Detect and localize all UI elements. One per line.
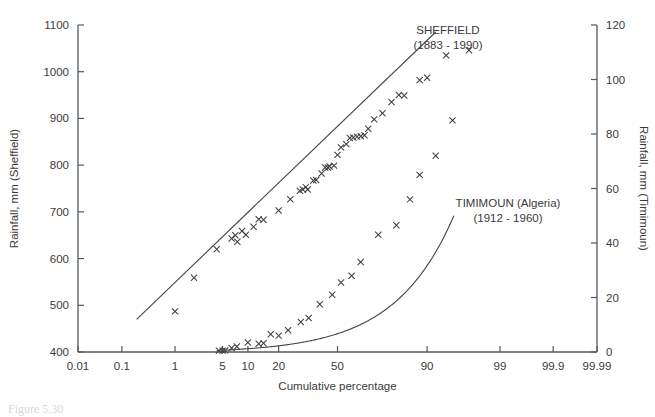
x-tick-label: 50	[331, 360, 344, 372]
x-tick-label: 0.1	[114, 360, 130, 372]
x-axis-title: Cumulative percentage	[278, 380, 396, 392]
x-tick-label: 0.01	[67, 360, 89, 372]
y-axis-title: Rainfall, mm (Sheffield)	[8, 129, 20, 248]
x-tick-label: 99	[494, 360, 507, 372]
y-tick-label: 400	[50, 346, 69, 358]
y2-tick-label: 0	[606, 346, 612, 358]
y-tick-label: 700	[50, 206, 69, 218]
x-tick-label: 1	[172, 360, 178, 372]
y-tick-label: 1000	[43, 66, 69, 78]
y2-tick-label: 20	[606, 292, 619, 304]
y-tick-label: 500	[50, 299, 69, 311]
y2-tick-label: 120	[606, 19, 625, 31]
sheffield-fit-line	[137, 32, 436, 319]
x-tick-label: 99.9	[542, 360, 564, 372]
y2-tick-label: 100	[606, 74, 625, 86]
y-tick-label: 1100	[44, 19, 69, 31]
y-tick-label: 800	[50, 159, 69, 171]
y2-axis-title: Rainfall, mm (Timimoun)	[638, 126, 650, 251]
y-tick-label: 900	[50, 112, 69, 124]
x-tick-label: 5	[219, 360, 225, 372]
x-tick-label: 10	[241, 360, 254, 372]
x-tick-label: 90	[421, 360, 434, 372]
y-tick-label: 600	[50, 253, 69, 265]
sheffield-label-line1: SHEFFIELD	[416, 24, 479, 36]
timimoun-label-line1: TIMIMOUN (Algeria)	[456, 197, 561, 209]
y2-tick-label: 40	[606, 237, 619, 249]
timimoun-label-line2: (1912 - 1960)	[473, 212, 542, 224]
figure-caption: Figure 5.30	[8, 402, 63, 417]
sheffield-label-line2: (1883 - 1990)	[413, 39, 482, 51]
y2-tick-label: 80	[606, 128, 619, 140]
x-tick-label: 99.99	[583, 360, 612, 372]
x-tick-label: 20	[272, 360, 285, 372]
timimoun-fit-curve	[217, 216, 454, 351]
y2-tick-label: 60	[606, 183, 619, 195]
